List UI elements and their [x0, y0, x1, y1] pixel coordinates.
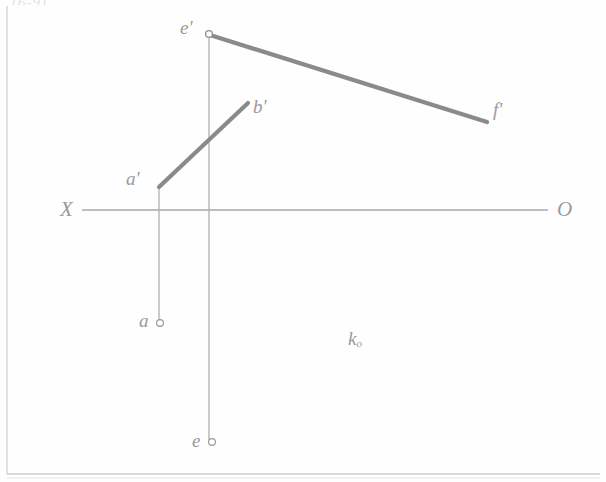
- label-a-prime: a': [126, 168, 140, 190]
- point-marker-a: [157, 320, 164, 327]
- label-a-point: a: [139, 310, 149, 332]
- drawing-sheet: (6-9), X O a' b' e' f' a e ko: [0, 0, 606, 482]
- point-marker-e: [209, 439, 216, 446]
- label-k-subscript: o: [356, 337, 362, 349]
- segment-e-prime-f-prime: [210, 35, 487, 122]
- label-e-prime: e': [180, 17, 193, 39]
- segment-a-prime-b-prime: [159, 103, 248, 187]
- point-marker-e-prime: [206, 31, 213, 38]
- geometry-canvas: [0, 0, 606, 482]
- label-b-prime: b': [253, 96, 267, 118]
- label-x-axis-right: O: [557, 197, 572, 222]
- label-e-point: e: [192, 430, 200, 452]
- label-x-axis-left: X: [60, 197, 73, 222]
- label-k-plane: ko: [348, 328, 362, 350]
- label-f-prime: f': [493, 99, 502, 121]
